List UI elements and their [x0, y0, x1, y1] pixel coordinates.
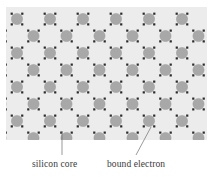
bound-electron	[170, 108, 172, 110]
bound-electron	[6, 98, 7, 100]
bound-electron	[77, 57, 79, 59]
bound-electron	[38, 74, 40, 76]
bound-electron	[203, 74, 205, 76]
bound-electron	[143, 47, 145, 49]
bound-electron	[159, 64, 161, 66]
bound-electron	[170, 64, 172, 66]
silicon-core	[193, 64, 204, 75]
bound-electron	[126, 74, 128, 76]
bound-electron	[104, 64, 106, 66]
silicon-core	[77, 81, 88, 92]
bound-electron	[6, 30, 7, 32]
silicon-core	[176, 115, 187, 126]
bound-electron	[11, 57, 13, 59]
silicon-core	[193, 30, 204, 41]
bound-electron	[143, 125, 145, 127]
bound-electron	[104, 132, 106, 134]
bound-electron	[21, 115, 23, 117]
bound-electron	[170, 132, 172, 134]
bound-electron	[126, 132, 128, 134]
bound-electron	[104, 108, 106, 110]
bound-electron	[93, 30, 95, 32]
bound-electron	[110, 47, 112, 49]
bound-electron	[186, 47, 188, 49]
bound-electron	[44, 91, 46, 93]
bound-electron	[192, 108, 194, 110]
silicon-core	[127, 98, 138, 109]
bound-electron	[71, 74, 73, 76]
bound-electron	[159, 30, 161, 32]
bound-electron	[77, 47, 79, 49]
bound-electron	[153, 57, 155, 59]
bound-electron	[71, 64, 73, 66]
silicon-core	[61, 64, 72, 75]
silicon-core	[127, 132, 138, 140]
top-caption-fragment	[6, 0, 207, 2]
bound-electron	[110, 115, 112, 117]
bound-electron	[203, 64, 205, 66]
silicon-core	[143, 81, 154, 92]
bound-electron	[170, 40, 172, 42]
bound-electron	[77, 81, 79, 83]
bound-electron	[203, 30, 205, 32]
bound-electron	[6, 64, 7, 66]
silicon-core	[61, 98, 72, 109]
bound-electron	[11, 23, 13, 25]
bound-electron	[27, 132, 29, 134]
bound-electron	[137, 98, 139, 100]
bound-electron	[120, 115, 122, 117]
bound-electron	[38, 40, 40, 42]
bound-electron	[93, 98, 95, 100]
bound-electron	[186, 57, 188, 59]
bound-electron	[44, 125, 46, 127]
bound-electron	[11, 81, 13, 83]
bound-electron	[38, 98, 40, 100]
bound-electron	[27, 30, 29, 32]
bound-electron	[54, 23, 56, 25]
bound-electron	[27, 74, 29, 76]
silicon-core	[193, 98, 204, 109]
bound-electron	[203, 98, 205, 100]
bound-electron	[176, 23, 178, 25]
bound-electron	[6, 40, 7, 42]
bound-electron	[60, 30, 62, 32]
silicon-core	[94, 98, 105, 109]
bound-electron	[153, 23, 155, 25]
bound-electron	[192, 98, 194, 100]
bound-electron	[77, 23, 79, 25]
silicon-core	[94, 132, 105, 140]
bound-electron	[186, 13, 188, 15]
bound-electron	[60, 132, 62, 134]
bound-electron	[120, 125, 122, 127]
bound-electron	[203, 108, 205, 110]
bound-electron	[54, 91, 56, 93]
silicon-core	[11, 115, 22, 126]
silicon-core	[110, 13, 121, 24]
bound-electron	[87, 81, 89, 83]
silicon-core	[77, 13, 88, 24]
bound-electron	[159, 132, 161, 134]
bound-electron	[27, 98, 29, 100]
bound-electron	[110, 81, 112, 83]
silicon-core	[160, 64, 171, 75]
silicon-core	[28, 64, 39, 75]
bound-electron	[21, 91, 23, 93]
bound-electron	[60, 98, 62, 100]
bound-electron	[120, 81, 122, 83]
bound-electron	[11, 115, 13, 117]
bound-electron	[87, 23, 89, 25]
silicon-core	[110, 81, 121, 92]
bound-electron	[159, 74, 161, 76]
bound-electron	[192, 40, 194, 42]
bound-electron	[192, 64, 194, 66]
bound-electron	[21, 81, 23, 83]
silicon-core	[160, 132, 171, 140]
bound-electron	[110, 125, 112, 127]
bound-electron	[159, 108, 161, 110]
lattice-panel	[6, 7, 207, 140]
silicon-core	[11, 13, 22, 24]
silicon-core	[127, 30, 138, 41]
silicon-core	[11, 81, 22, 92]
bound-electron	[104, 98, 106, 100]
bound-electron	[126, 98, 128, 100]
